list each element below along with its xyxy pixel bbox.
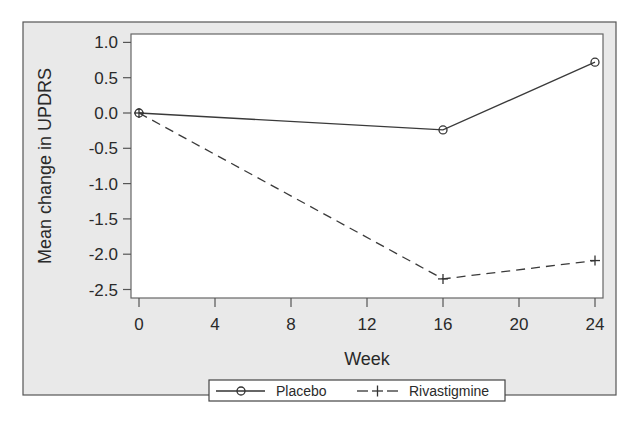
x-tick-label: 24	[586, 315, 605, 334]
y-tick-label: -2.5	[89, 281, 118, 300]
x-tick-label: 12	[358, 315, 377, 334]
legend-label-rivastigmine: Rivastigmine	[409, 383, 489, 399]
x-tick-label: 16	[434, 315, 453, 334]
y-tick-label: -1.5	[89, 210, 118, 229]
y-tick-label: 0.5	[94, 69, 118, 88]
y-axis-title: Mean change in UPDRS	[35, 68, 55, 264]
y-tick-label: -1.0	[89, 175, 118, 194]
x-tick-label: 8	[286, 315, 295, 334]
x-tick-label: 4	[210, 315, 219, 334]
legend: Placebo Rivastigmine	[209, 380, 505, 401]
x-tick-label: 20	[510, 315, 529, 334]
y-tick-label: -0.5	[89, 139, 118, 158]
chart: 1.00.50.0-0.5-1.0-1.5-2.0-2.5 0481216202…	[0, 0, 630, 428]
x-tick-label: 0	[134, 315, 143, 334]
plot-area	[131, 34, 603, 298]
x-axis-title: Week	[344, 349, 391, 369]
y-tick-label: -2.0	[89, 245, 118, 264]
y-tick-label: 0.0	[94, 104, 118, 123]
legend-label-placebo: Placebo	[276, 383, 327, 399]
y-tick-label: 1.0	[94, 33, 118, 52]
